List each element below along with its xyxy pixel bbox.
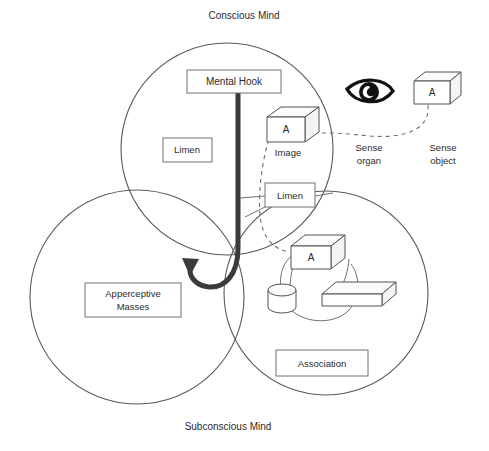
hook-arrowhead	[182, 258, 199, 276]
association-slab	[322, 282, 396, 306]
image-cube-letter: A	[283, 124, 290, 135]
diagram-canvas: Conscious Mind Subconscious Mind Mental …	[0, 0, 489, 451]
image-label: Image	[275, 147, 301, 158]
association-cube-letter: A	[308, 252, 315, 263]
subconscious-mind-title: Subconscious Mind	[185, 421, 272, 432]
association-cylinder	[268, 284, 296, 313]
association-cube	[291, 235, 345, 269]
dashed-sense-to-image	[305, 105, 428, 136]
sense-organ-label-line1: Sense	[356, 142, 383, 153]
mental-hook-label: Mental Hook	[206, 76, 263, 87]
limen-left-label: Limen	[174, 144, 200, 155]
diagram-svg: Conscious Mind Subconscious Mind Mental …	[0, 0, 489, 451]
apperceptive-masses-label-line1: Apperceptive	[105, 288, 160, 299]
sense-object-label-line1: Sense	[430, 142, 457, 153]
limen-right-leader-right	[315, 193, 333, 196]
conscious-mind-title: Conscious Mind	[208, 10, 279, 21]
sense-object-label-line2: object	[430, 155, 456, 166]
sense-object-cube	[414, 72, 461, 104]
apperceptive-masses-label-line2: Masses	[117, 301, 150, 312]
sense-organ-label-line2: organ	[357, 155, 381, 166]
hook-icon	[182, 92, 238, 287]
image-cube	[267, 107, 319, 142]
association-label: Association	[298, 358, 347, 369]
eye-icon	[347, 80, 393, 102]
limen-right-leader-down	[245, 207, 265, 217]
sense-object-cube-letter: A	[429, 87, 436, 98]
limen-right-label: Limen	[277, 190, 303, 201]
limen-right-leader-left	[240, 196, 265, 198]
